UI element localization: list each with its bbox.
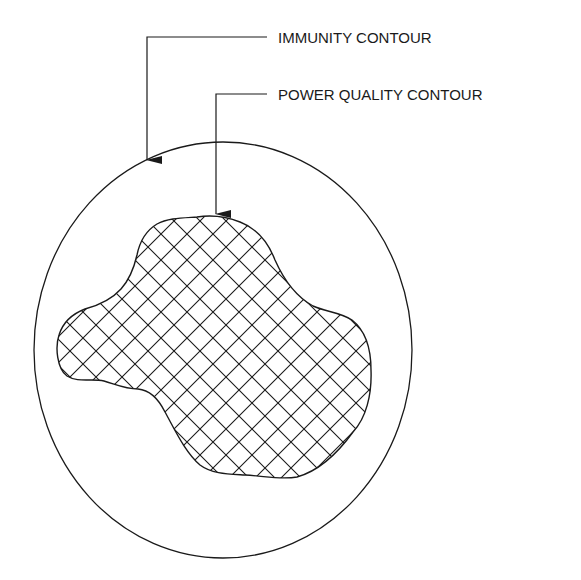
power-quality-leader-line — [216, 94, 267, 214]
immunity-leader-line — [147, 37, 267, 160]
immunity-contour-label: IMMUNITY CONTOUR — [278, 29, 432, 46]
power-quality-contour-region — [57, 216, 371, 478]
power-quality-contour-label: POWER QUALITY CONTOUR — [278, 86, 483, 103]
contour-diagram: IMMUNITY CONTOUR POWER QUALITY CONTOUR — [0, 0, 581, 580]
